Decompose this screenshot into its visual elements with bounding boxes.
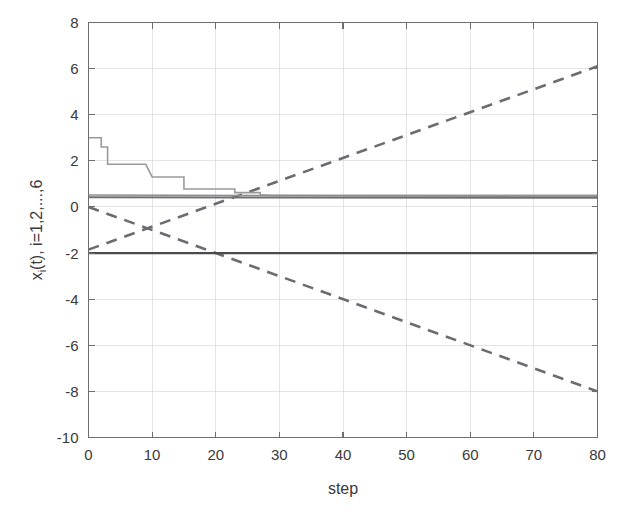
x-tick-label: 0 — [84, 446, 92, 463]
y-tick-label: 4 — [70, 106, 78, 123]
x-tick-label: 70 — [526, 446, 543, 463]
x-tick-label: 40 — [335, 446, 352, 463]
x-tick-label: 10 — [144, 446, 161, 463]
y-tick-label: -8 — [65, 383, 78, 400]
y-tick-label: -6 — [65, 337, 78, 354]
y-tick-label: 0 — [70, 198, 78, 215]
y-tick-label: -4 — [65, 291, 78, 308]
y-axis-title-base: x — [28, 272, 45, 280]
y-axis-title-rest: (t), i=1,2,...,6 — [28, 180, 45, 270]
y-tick-label: 8 — [70, 14, 78, 31]
y-tick-label: 2 — [70, 152, 78, 169]
y-tick-label: -10 — [57, 429, 79, 446]
x-tick-label: 60 — [462, 446, 479, 463]
x-tick-label: 50 — [398, 446, 415, 463]
x-tick-label: 20 — [207, 446, 224, 463]
figure-container: 01020304050607080 86420-2-4-6-8-10 step … — [0, 0, 631, 517]
y-tick-label: 6 — [70, 60, 78, 77]
x-axis-title: step — [328, 480, 358, 497]
y-tick-label: -2 — [65, 245, 78, 262]
figure-background — [0, 0, 631, 517]
x-tick-label: 30 — [271, 446, 288, 463]
line-chart: 01020304050607080 86420-2-4-6-8-10 step … — [0, 0, 631, 517]
x-tick-label: 80 — [589, 446, 606, 463]
